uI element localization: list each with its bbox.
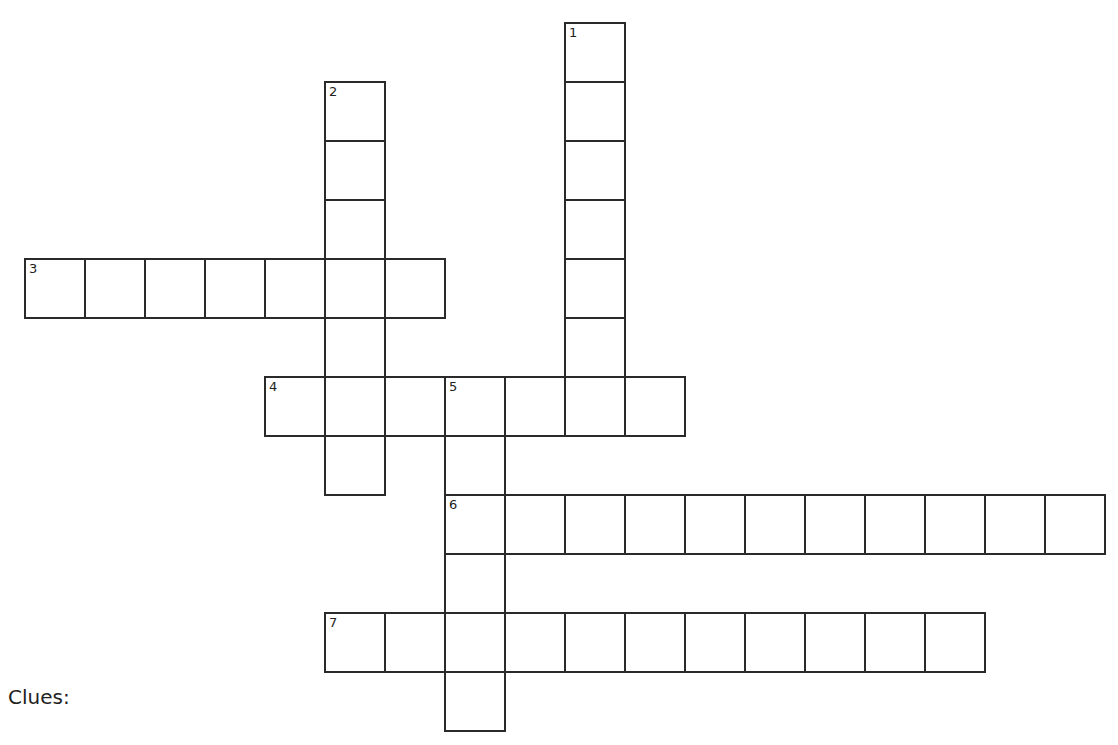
crossword-cell[interactable] — [444, 553, 506, 614]
crossword-cell[interactable] — [444, 671, 506, 732]
crossword-cell[interactable] — [924, 612, 986, 673]
crossword-cell[interactable]: 2 — [324, 81, 386, 142]
crossword-cell[interactable] — [804, 494, 866, 555]
crossword-cell[interactable] — [864, 612, 926, 673]
crossword-cell[interactable] — [744, 612, 806, 673]
crossword-cell[interactable] — [984, 494, 1046, 555]
clue-number: 7 — [329, 615, 337, 630]
crossword-cell[interactable]: 5 — [444, 376, 506, 437]
crossword-cell[interactable]: 4 — [264, 376, 326, 437]
crossword-cell[interactable] — [564, 317, 626, 378]
clue-number: 1 — [569, 25, 577, 40]
crossword-cell[interactable] — [564, 376, 626, 437]
crossword-cell[interactable] — [684, 494, 746, 555]
crossword-cell[interactable] — [444, 612, 506, 673]
crossword-cell[interactable] — [564, 494, 626, 555]
crossword-cell[interactable] — [384, 612, 446, 673]
crossword-cell[interactable] — [504, 612, 566, 673]
clue-number: 5 — [449, 379, 457, 394]
crossword-cell[interactable] — [324, 317, 386, 378]
crossword-cell[interactable] — [504, 376, 566, 437]
crossword-cell[interactable] — [324, 376, 386, 437]
crossword-cell[interactable] — [324, 140, 386, 201]
clue-number: 4 — [269, 379, 277, 394]
crossword-cell[interactable] — [624, 612, 686, 673]
crossword-cell[interactable] — [564, 612, 626, 673]
crossword-cell[interactable] — [864, 494, 926, 555]
crossword-cell[interactable]: 1 — [564, 22, 626, 83]
crossword-grid: 1234567 — [0, 0, 1118, 745]
clues-label: Clues: — [8, 685, 70, 709]
crossword-cell[interactable] — [264, 258, 326, 319]
crossword-cell[interactable] — [324, 258, 386, 319]
crossword-cell[interactable] — [504, 494, 566, 555]
clue-number: 3 — [29, 261, 37, 276]
crossword-cell[interactable] — [924, 494, 986, 555]
crossword-cell[interactable] — [1044, 494, 1106, 555]
crossword-cell[interactable] — [384, 258, 446, 319]
crossword-cell[interactable] — [564, 140, 626, 201]
crossword-cell[interactable] — [744, 494, 806, 555]
crossword-cell[interactable] — [624, 376, 686, 437]
clue-number: 2 — [329, 84, 337, 99]
crossword-cell[interactable] — [384, 376, 446, 437]
crossword-cell[interactable] — [324, 199, 386, 260]
crossword-cell[interactable] — [684, 612, 746, 673]
crossword-cell[interactable] — [204, 258, 266, 319]
crossword-cell[interactable] — [624, 494, 686, 555]
crossword-cell[interactable] — [804, 612, 866, 673]
crossword-cell[interactable]: 3 — [24, 258, 86, 319]
crossword-cell[interactable]: 6 — [444, 494, 506, 555]
crossword-cell[interactable] — [564, 81, 626, 142]
clue-number: 6 — [449, 497, 457, 512]
crossword-cell[interactable] — [144, 258, 206, 319]
crossword-cell[interactable] — [324, 435, 386, 496]
crossword-cell[interactable] — [564, 199, 626, 260]
crossword-cell[interactable] — [444, 435, 506, 496]
crossword-cell[interactable] — [564, 258, 626, 319]
crossword-cell[interactable] — [84, 258, 146, 319]
crossword-cell[interactable]: 7 — [324, 612, 386, 673]
